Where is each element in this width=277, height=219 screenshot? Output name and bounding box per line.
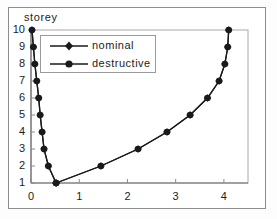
data-point-marker: [41, 146, 48, 153]
y-tick-label: 6: [7, 91, 25, 103]
data-point-marker: [135, 146, 142, 153]
legend-marker-diamond: [50, 45, 88, 47]
data-point-marker: [29, 27, 36, 34]
y-tick-label: 2: [7, 159, 25, 171]
y-tick-label: 1: [7, 176, 25, 188]
x-tick-label: 3: [167, 190, 185, 202]
legend-entry-destructive: destructive: [41, 54, 155, 73]
legend-entry-nominal: nominal: [41, 36, 155, 55]
data-point-marker: [30, 44, 37, 51]
y-tick-label: 9: [7, 40, 25, 52]
y-tick-label: 4: [7, 125, 25, 137]
x-tick-label: 1: [70, 190, 88, 202]
chart-figure: storey 12345678910 01234 nominal destruc…: [0, 0, 277, 219]
legend-label-nominal: nominal: [92, 39, 134, 51]
data-point-marker: [224, 44, 231, 51]
data-point-marker: [35, 95, 42, 102]
y-tick-label: 8: [7, 57, 25, 69]
plot-area: storey 12345678910 01234 nominal destruc…: [0, 0, 277, 219]
data-point-marker: [45, 163, 52, 170]
data-point-marker: [37, 112, 44, 119]
chart-canvas: [0, 0, 277, 219]
data-point-marker: [164, 129, 171, 136]
data-point-marker: [98, 163, 105, 170]
data-point-marker: [204, 95, 211, 102]
y-tick-label: 7: [7, 74, 25, 86]
legend-marker-circle: [50, 63, 88, 65]
data-point-marker: [222, 61, 229, 68]
y-axis-label: storey: [24, 11, 58, 23]
data-point-marker: [187, 112, 194, 119]
y-tick-label: 5: [7, 108, 25, 120]
y-tick-label: 10: [7, 23, 25, 35]
data-point-marker: [225, 27, 232, 34]
data-point-marker: [33, 78, 40, 85]
data-point-marker: [53, 180, 60, 187]
y-tick-label: 3: [7, 142, 25, 154]
data-point-marker: [216, 78, 223, 85]
x-tick-label: 4: [215, 190, 233, 202]
x-tick-label: 0: [22, 190, 40, 202]
data-point-marker: [39, 129, 46, 136]
data-point-marker: [32, 61, 39, 68]
chart-legend: nominal destructive: [40, 35, 156, 73]
legend-label-destructive: destructive: [92, 57, 151, 69]
x-tick-label: 2: [118, 190, 136, 202]
